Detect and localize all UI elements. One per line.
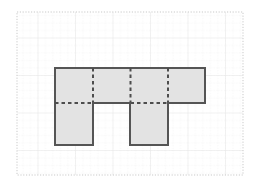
grid-figure-canvas (0, 0, 259, 191)
figure-container (0, 0, 259, 191)
